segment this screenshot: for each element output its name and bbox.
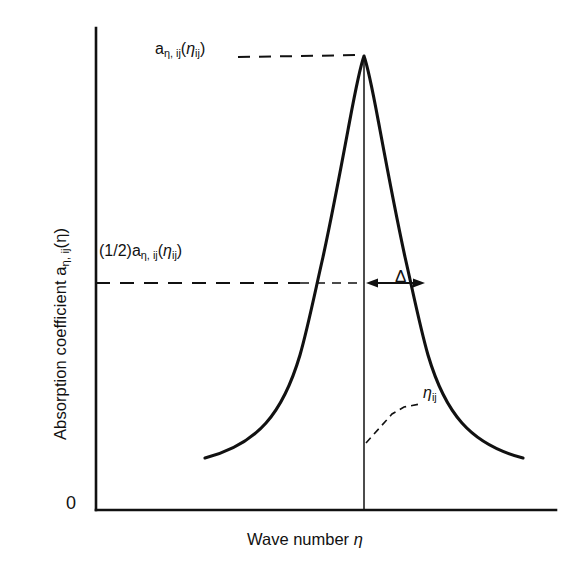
- line-center-label-symbol: η: [423, 384, 432, 401]
- peak-label-base: a: [155, 40, 164, 57]
- x-axis-title-text: Wave number: [247, 530, 354, 548]
- peak-leader-dashed-line: [238, 55, 362, 57]
- half-max-label-paren-close: ): [177, 242, 182, 259]
- line-center-callout-leader: [366, 404, 420, 443]
- y-axis-title-argument: (η): [51, 228, 69, 248]
- half-max-label-arg-symbol: η: [163, 242, 172, 259]
- half-max-label-base: a: [132, 242, 141, 259]
- line-center-label: ηij: [423, 385, 437, 403]
- half-width-delta-label: Δ: [395, 268, 406, 285]
- line-center-label-subscript: ij: [432, 391, 437, 403]
- y-axis-title: Absorption coefficient aη, ij(η): [52, 10, 72, 440]
- half-max-label-prefix: (1/2): [99, 242, 132, 259]
- x-axis-title: Wave number η: [247, 531, 363, 548]
- plot-canvas: [0, 0, 579, 586]
- peak-label-subscript: η, ij: [164, 47, 181, 59]
- origin-label: 0: [66, 494, 76, 512]
- half-max-label: (1/2)aη, ij(ηij): [99, 243, 182, 261]
- half-max-label-subscript: η, ij: [141, 249, 158, 261]
- peak-absorption-label: aη, ij(ηij): [155, 41, 205, 59]
- x-axis-title-symbol: η: [354, 530, 363, 548]
- peak-label-paren-close: ): [200, 40, 205, 57]
- peak-label-arg-symbol: η: [186, 40, 195, 57]
- y-axis-title-subscript: η, ij: [59, 248, 71, 266]
- absorption-line-profile-figure: Absorption coefficient aη, ij(η) Wave nu…: [0, 0, 579, 586]
- y-axis-title-text: Absorption coefficient a: [51, 266, 69, 440]
